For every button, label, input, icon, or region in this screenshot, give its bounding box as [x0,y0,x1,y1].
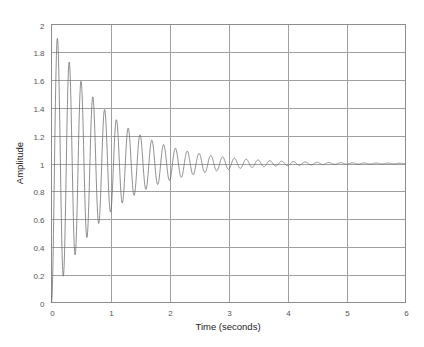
y-tick-label: 1.2 [33,133,45,142]
step-response-chart: 00.20.40.60.811.21.41.61.82 0123456 Time… [0,0,424,347]
y-tick-label: 1.6 [33,77,45,86]
y-tick-label: 0.8 [33,188,45,197]
x-tick-label: 3 [227,309,232,318]
plot-frame [52,25,406,303]
y-tick-label: 0.4 [33,244,45,253]
step-response-line [52,38,406,302]
y-tick-label: 0.2 [33,272,45,281]
x-axis-label: Time (seconds) [195,321,260,332]
y-axis-label: Amplitude [14,142,25,184]
x-tick-label: 2 [168,309,173,318]
y-tick-label: 1.8 [33,49,45,58]
y-tick-labels: 00.20.40.60.811.21.41.61.82 [33,22,45,309]
y-tick-label: 0.6 [33,216,45,225]
x-tick-labels: 0123456 [50,309,409,318]
x-tick-label: 4 [286,309,291,318]
y-tick-label: 0 [40,300,45,309]
x-tick-label: 5 [345,309,350,318]
grid [52,25,406,303]
x-tick-label: 1 [109,309,114,318]
y-tick-label: 1.4 [33,105,45,114]
y-tick-label: 2 [40,22,45,31]
x-tick-label: 0 [50,309,55,318]
y-tick-label: 1 [40,161,45,170]
x-tick-label: 6 [404,309,409,318]
